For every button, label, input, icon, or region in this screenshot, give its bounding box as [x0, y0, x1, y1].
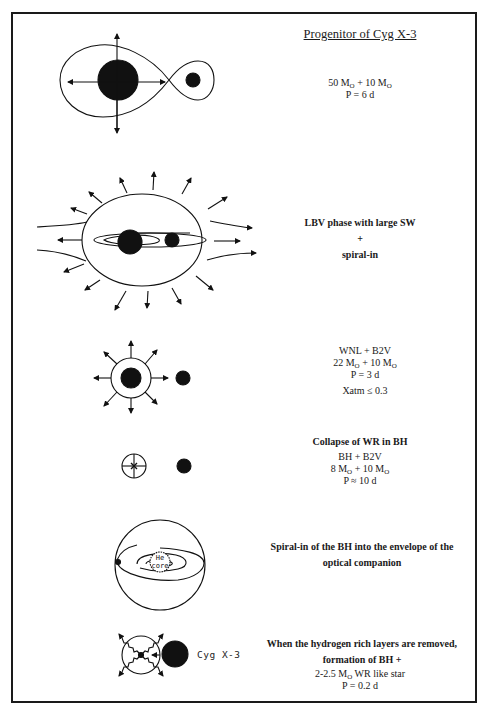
page-title: Progenitor of Cyg X-3	[300, 28, 420, 40]
stage1-masses: 50 MO + 10 MO	[300, 77, 420, 89]
roche-lobe-binary-icon	[60, 34, 214, 133]
stage2-heading: LBV phase with large SW	[290, 217, 430, 229]
lbv-envelope-icon	[37, 172, 256, 310]
black-hole-binary-icon	[122, 454, 191, 478]
stage3-period: P = 3 d	[305, 369, 425, 381]
cyg-x3-system-icon	[119, 634, 188, 676]
stage1-period: P = 6 d	[300, 89, 420, 101]
he-label: He	[156, 554, 164, 562]
stage2-subheading: spiral-in	[290, 249, 430, 261]
spiral-in-envelope-icon: He core	[115, 520, 205, 610]
stage6-star: 2-2.5 MO WR like star	[290, 668, 430, 680]
stage4-heading: Collapse of WR in BH	[295, 436, 425, 448]
stage4-period: P ≈ 10 d	[300, 475, 420, 487]
stage6-heading-line1: When the hydrogen rich layers are remove…	[262, 638, 462, 650]
stage4-system: BH + B2V	[300, 451, 420, 463]
stage3-masses: 22 MO + 10 MO	[305, 357, 425, 369]
wolf-rayet-wind-icon	[94, 341, 190, 413]
core-label: core	[152, 562, 169, 570]
stage2-plus: +	[290, 233, 430, 245]
stage4-masses: 8 MO + 10 MO	[300, 463, 420, 475]
stage5-heading-line2: optical companion	[262, 557, 462, 569]
stage6-heading-line2: formation of BH +	[262, 654, 462, 666]
stage3-system: WNL + B2V	[305, 345, 425, 357]
stage6-period: P = 0.2 d	[300, 680, 420, 692]
stage3-xatm: Xatm ≤ 0.3	[305, 385, 425, 397]
stage5-heading-line1: Spiral-in of the BH into the envelope of…	[262, 541, 462, 553]
cyg-x3-label: Cyg X-3	[197, 649, 241, 660]
